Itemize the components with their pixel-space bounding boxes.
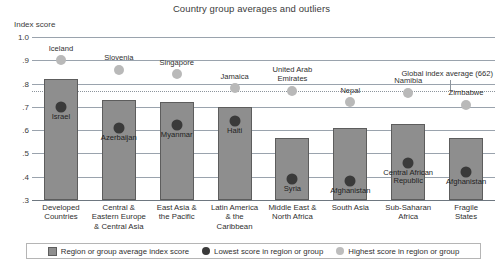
legend-marker-icon (202, 247, 210, 255)
highest-score-dot[interactable] (114, 65, 124, 75)
lowest-score-dot[interactable] (113, 122, 124, 133)
bar[interactable] (44, 79, 78, 200)
lowest-score-dot[interactable] (171, 120, 182, 131)
lowest-score-label: Afghanistan (446, 178, 486, 187)
highest-score-dot[interactable] (172, 69, 182, 79)
highest-score-dot[interactable] (56, 55, 66, 65)
lowest-score-dot[interactable] (287, 174, 298, 185)
lowest-score-label: Haiti (227, 127, 242, 136)
y-axis-tick-label: .7 (3, 102, 29, 111)
y-axis-tick-label: .5 (3, 149, 29, 158)
highest-score-dot[interactable] (230, 83, 240, 93)
legend-marker-icon (48, 247, 57, 256)
chart-container: Country group averages and outliers Inde… (0, 0, 503, 270)
x-axis-category-label: FragileStates (430, 203, 502, 222)
lowest-score-label: Central AfricanRepublic (383, 169, 433, 186)
lowest-score-dot[interactable] (403, 157, 414, 168)
y-axis-tick-label: .9 (3, 56, 29, 65)
y-axis-tick-label: .6 (3, 126, 29, 135)
plot-area: Global index average (662)IcelandSloveni… (32, 37, 495, 200)
legend-item[interactable]: Region or group average index score (48, 247, 189, 256)
chart-title: Country group averages and outliers (0, 3, 503, 14)
bar[interactable] (160, 102, 194, 200)
chart-legend: Region or group average index scoreLowes… (26, 243, 481, 259)
lowest-score-dot[interactable] (229, 115, 240, 126)
bar[interactable] (102, 100, 136, 200)
lowest-score-label: Israel (52, 113, 71, 122)
y-axis-label: Index score (14, 20, 55, 29)
lowest-score-label: Azerbaijan (101, 134, 137, 143)
highest-score-label: Nepal (340, 87, 360, 96)
gridline (32, 200, 495, 201)
highest-score-label: Slovenia (104, 54, 133, 63)
lowest-score-dot[interactable] (55, 101, 66, 112)
highest-score-label: United ArabEmirates (273, 66, 313, 83)
legend-label: Lowest score in region or group (214, 247, 323, 256)
y-axis-tick-label: 1.0 (3, 33, 29, 42)
legend-marker-icon (336, 247, 344, 255)
legend-item[interactable]: Lowest score in region or group (202, 247, 323, 256)
highest-score-label: Iceland (49, 45, 74, 54)
legend-label: Region or group average index score (61, 247, 189, 256)
legend-item[interactable]: Highest score in region or group (336, 247, 459, 256)
gridline (32, 37, 495, 38)
legend-label: Highest score in region or group (348, 247, 459, 256)
global-average-line (32, 91, 495, 92)
y-axis-tick-label: .4 (3, 172, 29, 181)
lowest-score-label: Myanmar (161, 131, 193, 140)
lowest-score-label: Afghanistan (330, 187, 370, 196)
highest-score-dot[interactable] (403, 88, 413, 98)
gridline (32, 84, 495, 85)
highest-score-label: Zimbabwe (449, 89, 484, 98)
highest-score-dot[interactable] (461, 100, 471, 110)
lowest-score-label: Syria (284, 185, 301, 194)
x-axis-category-labels: DevelopedCountriesCentral &Eastern Europ… (32, 203, 495, 237)
y-axis-ticks: 1.0.9.8.7.6.5.4.3 (0, 37, 29, 200)
lowest-score-dot[interactable] (461, 167, 472, 178)
y-axis-tick-label: .8 (3, 79, 29, 88)
highest-score-dot[interactable] (345, 97, 355, 107)
highest-score-label: Namibia (394, 77, 422, 86)
lowest-score-dot[interactable] (345, 176, 356, 187)
gridline (32, 60, 495, 61)
highest-score-label: Jamaica (220, 73, 248, 82)
highest-score-label: Singapore (159, 59, 194, 68)
highest-score-dot[interactable] (287, 86, 297, 96)
